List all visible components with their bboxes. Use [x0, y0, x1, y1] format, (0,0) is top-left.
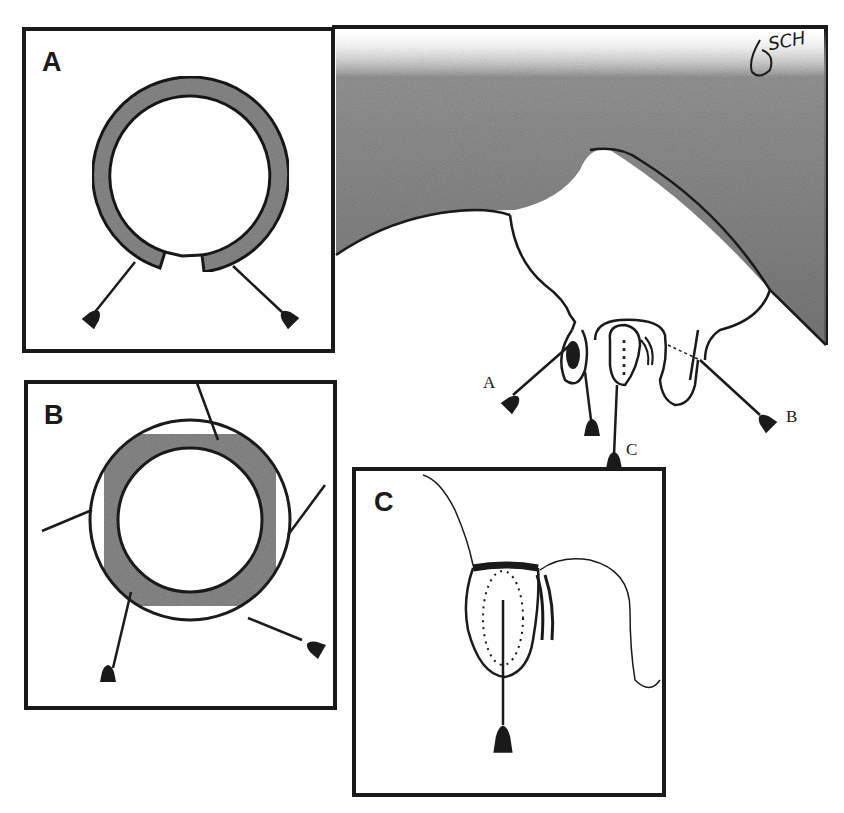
- udder-illustration: [336, 30, 826, 405]
- needle-icon: [288, 485, 325, 535]
- needle-icon: [700, 360, 777, 433]
- needle-icon: [82, 262, 135, 329]
- needle-icon: [42, 510, 92, 531]
- ring-a: [93, 77, 289, 272]
- needle-icon: [248, 618, 326, 659]
- callout-label-c: C: [626, 441, 637, 458]
- needle-icon: [233, 266, 299, 329]
- illustration-canvas: [0, 0, 844, 813]
- callout-label-a: A: [483, 374, 495, 391]
- needle-icon: [584, 372, 600, 436]
- ring-b: [90, 420, 290, 620]
- callout-label-b: B: [786, 408, 797, 425]
- needle-icon: [501, 345, 570, 414]
- needle-icon: [606, 385, 622, 469]
- teat-detail: [423, 475, 660, 688]
- needle-icon: [100, 592, 131, 682]
